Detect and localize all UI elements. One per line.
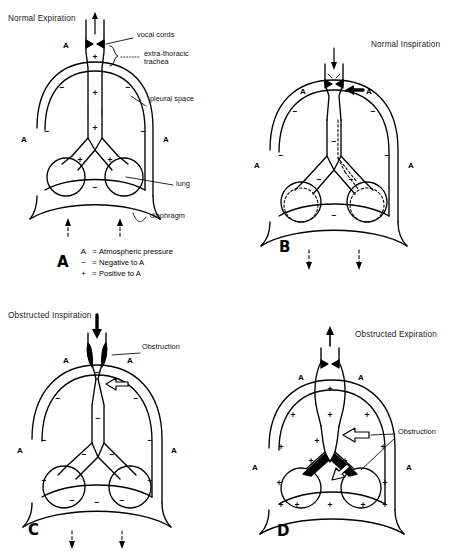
- svg-text:+: +: [315, 436, 320, 446]
- legend-symbol-plus: +: [77, 268, 90, 279]
- svg-text:A: A: [21, 135, 27, 144]
- svg-text:A: A: [254, 161, 260, 170]
- svg-text:−: −: [95, 497, 100, 507]
- callout-diaphragm: diaphragm: [150, 212, 185, 221]
- svg-text:−: −: [60, 82, 65, 92]
- svg-text:+: +: [93, 88, 98, 98]
- legend-text-positive: Positive to A: [99, 268, 141, 279]
- svg-text:+: +: [279, 500, 284, 510]
- legend-equals-2: =: [90, 268, 99, 279]
- svg-text:−: −: [42, 475, 47, 485]
- svg-text:−: −: [279, 150, 284, 160]
- panel-d-obstructed-expiration: Obstructed Expiration: [235, 318, 471, 559]
- svg-text:+: +: [365, 410, 370, 420]
- svg-text:A: A: [300, 87, 306, 96]
- legend-symbol-a: A: [77, 246, 90, 257]
- callout-lung: lung: [176, 180, 190, 189]
- svg-text:−: −: [317, 174, 322, 184]
- legend-equals-1: =: [90, 257, 99, 268]
- svg-text:−: −: [332, 136, 337, 146]
- legend-equals-0: =: [90, 246, 99, 257]
- panel-b-drawing: − − − − − − − − A A A A: [235, 22, 471, 290]
- callout-obstruction-d: Obstruction: [398, 428, 436, 437]
- svg-text:−: −: [96, 413, 101, 423]
- svg-text:−: −: [349, 174, 354, 184]
- svg-text:+: +: [328, 500, 333, 510]
- panel-b-letter: B: [279, 240, 290, 255]
- svg-text:+: +: [291, 410, 296, 420]
- panel-d-drawing: + + + + + + + + + + + + + + + + A A A A: [235, 318, 471, 559]
- svg-text:−: −: [95, 367, 100, 377]
- svg-text:A: A: [63, 41, 69, 50]
- svg-text:+: +: [343, 456, 348, 466]
- panel-b-normal-inspiration: Normal Inspiration: [235, 22, 471, 290]
- svg-text:A: A: [163, 135, 169, 144]
- svg-text:+: +: [383, 500, 388, 510]
- legend-symbol-minus: −: [77, 257, 90, 268]
- legend-text-atmospheric: Atmospheric pressure: [99, 246, 173, 257]
- svg-text:−: −: [148, 475, 153, 485]
- svg-text:−: −: [371, 106, 376, 116]
- panel-a-letter: A: [57, 257, 69, 268]
- svg-text:+: +: [328, 410, 333, 420]
- svg-text:+: +: [309, 456, 314, 466]
- pressure-legend: A A = Atmospheric pressure − = Negative …: [57, 246, 232, 288]
- svg-text:+: +: [381, 442, 386, 452]
- svg-text:+: +: [383, 478, 388, 488]
- svg-text:−: −: [93, 182, 98, 192]
- svg-text:−: −: [293, 106, 298, 116]
- svg-text:A: A: [127, 356, 133, 365]
- legend-row-atmospheric: A = Atmospheric pressure: [77, 246, 173, 257]
- svg-text:A: A: [358, 373, 364, 382]
- svg-text:A: A: [366, 87, 372, 96]
- svg-text:+: +: [277, 478, 282, 488]
- panel-c-obstructed-inspiration: Obstructed Inspiration: [0, 305, 236, 559]
- callout-extra-thoracic-trachea-line2: trachea: [144, 58, 169, 67]
- callout-pleural-space: pleural space: [150, 95, 194, 104]
- svg-text:+: +: [78, 155, 83, 165]
- panel-c-letter: C: [28, 523, 39, 538]
- svg-text:−: −: [42, 435, 47, 445]
- svg-text:−: −: [148, 435, 153, 445]
- respiratory-mechanics-figure: Normal Expiration: [0, 0, 471, 559]
- svg-text:+: +: [328, 384, 333, 394]
- svg-text:−: −: [385, 150, 390, 160]
- svg-text:A: A: [17, 446, 23, 455]
- svg-text:−: −: [110, 449, 115, 459]
- svg-text:−: −: [134, 393, 139, 403]
- callout-vocal-cords: vocal cords: [137, 31, 174, 40]
- svg-text:+: +: [93, 52, 98, 62]
- svg-text:+: +: [361, 500, 366, 510]
- svg-text:+: +: [108, 155, 113, 165]
- svg-text:A: A: [298, 373, 304, 382]
- svg-text:+: +: [295, 500, 300, 510]
- svg-text:−: −: [126, 82, 131, 92]
- svg-text:+: +: [279, 442, 284, 452]
- svg-text:A: A: [171, 446, 177, 455]
- svg-text:−: −: [70, 495, 75, 505]
- legend-row-negative: − = Negative to A: [77, 257, 173, 268]
- svg-text:A: A: [408, 161, 414, 170]
- svg-text:−: −: [56, 393, 61, 403]
- panel-d-letter: D: [277, 524, 289, 539]
- svg-text:−: −: [120, 495, 125, 505]
- legend-row-positive: + = Positive to A: [77, 268, 173, 279]
- svg-text:−: −: [141, 126, 146, 136]
- callout-obstruction-c: Obstruction: [142, 343, 180, 352]
- svg-text:A: A: [252, 463, 258, 472]
- svg-text:A: A: [63, 356, 69, 365]
- legend-text-negative: Negative to A: [99, 257, 144, 268]
- svg-text:A: A: [406, 463, 412, 472]
- svg-text:−: −: [82, 449, 87, 459]
- svg-text:−: −: [45, 126, 50, 136]
- svg-text:+: +: [93, 123, 98, 133]
- svg-text:−: −: [332, 210, 337, 220]
